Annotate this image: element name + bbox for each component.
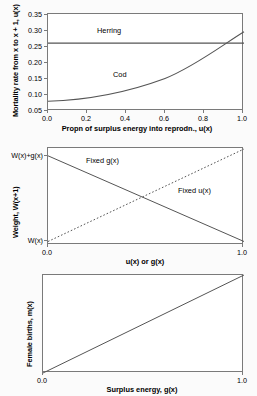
top-xtickmark [86, 110, 87, 113]
top-xtick-0.0: 0.0 [37, 114, 57, 123]
top-annot-cod: Cod [113, 70, 127, 79]
bottom-plot-area [42, 274, 243, 372]
middle-xtick-1.0: 1.0 [232, 248, 252, 257]
top-xtickmark [47, 110, 48, 113]
bottom-xtickmark [242, 372, 243, 375]
middle-xtickmark [47, 244, 48, 247]
top-ytick-0.30: 0.30 [18, 26, 42, 35]
bottom-y-axis-label: Female births, m(x) [25, 301, 34, 367]
figure-root: Mortality rate from x to x + 1, u(x) 0.3… [0, 0, 257, 396]
middle-curves [48, 148, 244, 245]
top-xtick-0.2: 0.2 [76, 114, 96, 123]
top-ytick-0.25: 0.25 [18, 42, 42, 51]
middle-y-axis-label: Weight, W(x+1) [11, 186, 20, 238]
bottom-curves [43, 275, 244, 373]
bottom-x-axis-label: Surplus energy, g(x) [82, 385, 202, 394]
top-xtick-1.0: 1.0 [232, 114, 252, 123]
top-plot-area [47, 13, 243, 110]
fixed-u-line [48, 149, 244, 242]
top-curves [48, 14, 244, 111]
middle-annot-fixed-g: Fixed g(x) [86, 156, 119, 165]
bottom-xtick-0.0: 0.0 [32, 376, 52, 385]
top-x-axis-label: Propn of surplus energy into reprodn., u… [27, 124, 247, 133]
fixed-g-line [48, 156, 244, 242]
middle-x-axis-label: u(x) or g(x) [85, 257, 205, 266]
top-xtick-0.8: 0.8 [193, 114, 213, 123]
top-xtickmark [125, 110, 126, 113]
middle-plot-area [47, 147, 243, 244]
top-ytick-0.15: 0.15 [18, 74, 42, 83]
middle-ytick-top: W(x)+g(x) [0, 151, 43, 160]
panel-middle: Weight, W(x+1) W(x)+g(x) W(x) Fixed g(x)… [0, 135, 257, 266]
top-xtick-0.4: 0.4 [115, 114, 135, 123]
panel-bottom: Female births, m(x) 0.0 1.0 Surplus ener… [0, 266, 257, 396]
middle-ytick-bottom: W(x) [0, 236, 43, 245]
bottom-xtickmark [42, 372, 43, 375]
top-ytick-0.35: 0.35 [18, 10, 42, 19]
bottom-xtick-1.0: 1.0 [232, 376, 252, 385]
middle-xtick-0.0: 0.0 [37, 248, 57, 257]
middle-xtickmark [242, 244, 243, 247]
top-xtickmark [164, 110, 165, 113]
cod-curve [48, 32, 244, 102]
female-births-line [43, 275, 244, 373]
top-annot-herring: Herring [97, 26, 121, 35]
top-xtickmark [242, 110, 243, 113]
top-xtickmark [203, 110, 204, 113]
panel-top: Mortality rate from x to x + 1, u(x) 0.3… [0, 0, 257, 135]
middle-annot-fixed-u: Fixed u(x) [178, 186, 211, 195]
top-ytick-0.10: 0.10 [18, 90, 42, 99]
top-xtick-0.6: 0.6 [154, 114, 174, 123]
top-ytick-0.20: 0.20 [18, 58, 42, 67]
